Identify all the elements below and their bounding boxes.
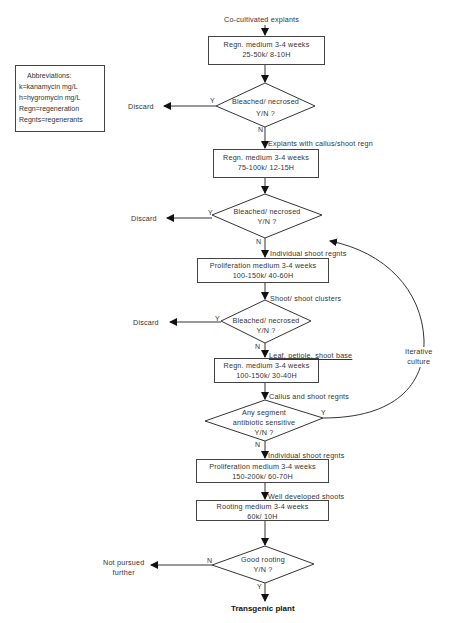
- decision-4-line1: Any segment: [205, 408, 323, 418]
- decision-5-yes: Y: [257, 583, 262, 590]
- step-3-line1: Proliferation medium 3-4 weeks: [198, 261, 328, 271]
- transgenic-plant-label: Transgenic plant: [231, 604, 295, 613]
- decision-5-line1: Good rooting: [212, 555, 314, 565]
- step-5-line1: Proliferation medium 3-4 weeks: [197, 462, 328, 472]
- decision-5: Good rooting Y/N ?: [212, 555, 314, 575]
- step-box-4: Regn. medium 3-4 weeks 100-150k/ 30-40H: [214, 358, 319, 383]
- decision-2-yes: Y: [208, 209, 213, 216]
- decision-4-yes: Y: [321, 409, 326, 416]
- iterative-culture-line2: culture: [405, 357, 432, 367]
- edge-label-explants-with-callus: Explants with callus/shoot regn: [268, 139, 373, 148]
- decision-3-no: N: [255, 343, 260, 350]
- decision-4: Any segment antibiotic sensitive Y/N ?: [205, 408, 323, 438]
- decision-2-line1: Bleached/ necrosed: [212, 207, 322, 217]
- discard-label-1: Discard: [128, 102, 154, 111]
- decision-4-line2: antibiotic sensitive: [205, 418, 323, 428]
- step-6-line2: 60k/ 10H: [197, 512, 328, 522]
- not-pursued-line1: Not pursued: [103, 558, 144, 568]
- step-box-2: Regn. medium 3-4 weeks 75-100k/ 12-15H: [213, 149, 319, 178]
- not-pursued-line2: further: [103, 568, 144, 578]
- step-1-line2: 25-50k/ 8-10H: [209, 50, 324, 60]
- edge-label-callus-shoot-regnts: Callus and shoot regnts: [269, 392, 349, 401]
- abbreviation-item: k=kanamycin mg/L: [19, 81, 101, 92]
- step-4-line2: 100-150k/ 30-40H: [215, 371, 318, 381]
- decision-3: Bleached/ necrosed Y/N ?: [221, 316, 311, 336]
- step-box-3: Proliferation medium 3-4 weeks 100-150k/…: [197, 258, 329, 283]
- abbreviations-title: Abbreviations:: [19, 70, 101, 81]
- step-6-line1: Rooting medium 3-4 weeks: [197, 502, 328, 512]
- abbreviation-item: Regn=regeneration: [19, 103, 101, 114]
- step-box-6: Rooting medium 3-4 weeks 60k/ 10H: [196, 500, 329, 521]
- abbreviations-legend: Abbreviations: k=kanamycin mg/L h=hygrom…: [15, 65, 105, 132]
- step-4-line1: Regn. medium 3-4 weeks: [215, 361, 318, 371]
- decision-5-no: N: [207, 557, 212, 564]
- decision-3-line2: Y/N ?: [221, 326, 311, 336]
- decision-2-line2: Y/N ?: [212, 217, 322, 227]
- discard-label-3: Discard: [133, 318, 159, 327]
- decision-1-line2: Y/N ?: [216, 109, 315, 119]
- decision-1-yes: Y: [210, 97, 215, 104]
- iterative-culture-label: Iterative culture: [405, 347, 432, 367]
- step-2-line2: 75-100k/ 12-15H: [214, 163, 318, 173]
- abbreviation-item: Regnts=regenerants: [19, 114, 101, 125]
- edge-label-leaf-petiole: Leaf, petiole, shoot base: [269, 351, 352, 360]
- step-box-1: Regn. medium 3-4 weeks 25-50k/ 8-10H: [208, 36, 325, 65]
- step-3-line2: 100-150k/ 40-60H: [198, 271, 328, 281]
- edge-label-shoot-clusters: Shoot/ shoot clusters: [270, 294, 341, 303]
- discard-label-2: Discard: [131, 214, 157, 223]
- start-label: Co-cultivated explants: [224, 15, 299, 24]
- abbreviation-item: h=hygromycin mg/L: [19, 92, 101, 103]
- decision-4-no: N: [255, 441, 260, 448]
- decision-1: Bleached/ necrosed Y/N ?: [216, 97, 315, 119]
- step-box-5: Proliferation medium 3-4 weeks 150-200k/…: [196, 459, 329, 483]
- decision-2: Bleached/ necrosed Y/N ?: [212, 207, 322, 227]
- decision-4-line3: Y/N ?: [205, 428, 323, 438]
- edge-label-well-developed-shoots: Well developed shoots: [268, 492, 344, 501]
- decision-3-line1: Bleached/ necrosed: [221, 316, 311, 326]
- decision-2-no: N: [256, 238, 261, 245]
- edge-label-individual-shoot-regnts-1: Individual shoot regnts: [270, 249, 347, 258]
- edge-label-individual-shoot-regnts-2: Individual shoot regnts: [268, 451, 345, 460]
- step-1-line1: Regn. medium 3-4 weeks: [209, 40, 324, 50]
- iterative-culture-line1: Iterative: [405, 347, 432, 357]
- decision-3-yes: Y: [215, 315, 220, 322]
- step-2-line1: Regn. medium 3-4 weeks: [214, 153, 318, 163]
- not-pursued-label: Not pursued further: [103, 558, 144, 578]
- decision-1-no: N: [258, 126, 263, 133]
- decision-5-line2: Y/N ?: [212, 565, 314, 575]
- step-5-line2: 150-200k/ 60-70H: [197, 472, 328, 482]
- decision-1-line1: Bleached/ necrosed: [216, 97, 315, 107]
